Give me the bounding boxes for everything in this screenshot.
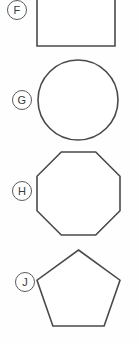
square-shape-icon bbox=[37, 0, 115, 46]
shape-label-badge-g[interactable]: G bbox=[12, 90, 32, 110]
shape-label-badge-f[interactable]: F bbox=[7, 0, 27, 20]
circle-shape-icon bbox=[37, 59, 119, 141]
worksheet-shape-column: F G H J bbox=[0, 0, 139, 346]
octagon-shape-icon bbox=[37, 152, 120, 235]
shape-label-badge-j[interactable]: J bbox=[15, 272, 35, 292]
pentagon-shape-icon bbox=[37, 250, 120, 326]
shape-label-badge-h[interactable]: H bbox=[12, 181, 32, 201]
